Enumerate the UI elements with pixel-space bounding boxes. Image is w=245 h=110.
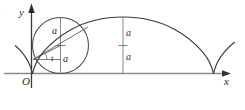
x-axis-label: x [224,76,229,87]
radius-upper-label: a [52,26,57,36]
radius-lower-label: a [63,54,68,64]
arch-lower-label: a [126,52,131,62]
y-axis-arrow-icon [28,4,34,14]
arch-upper-label: a [126,28,131,38]
angle-t-label: t [51,54,54,63]
corner-mark: . [1,2,3,12]
cycloid-previous-arch-branch [16,46,33,74]
cycloid-diagram-svg [0,0,245,110]
cycloid-next-arch-branch [214,42,235,73]
x-axis [4,70,231,77]
angle-arc-t [45,53,47,60]
cycloid-figure: y x O a a t a a . [0,0,245,110]
origin-label: O [22,76,30,87]
y-axis-label: y [19,7,24,18]
